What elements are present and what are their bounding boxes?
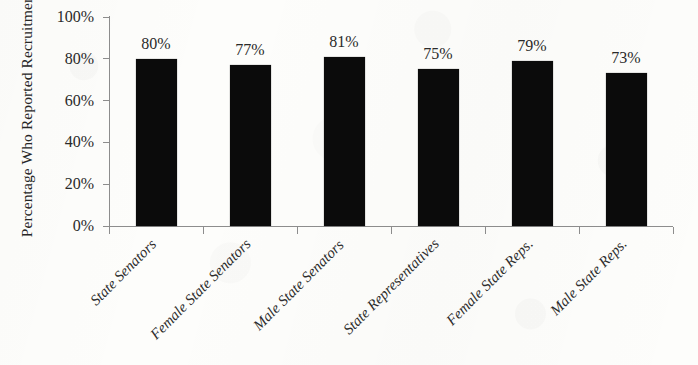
y-tick-label: 0% bbox=[4, 218, 94, 234]
y-axis-line bbox=[109, 16, 110, 227]
y-tick-label: 20% bbox=[4, 176, 94, 192]
bar-value-label: 75% bbox=[398, 46, 478, 62]
bar-value-label: 77% bbox=[210, 42, 290, 58]
y-tick-label: 100% bbox=[4, 9, 94, 25]
y-tick-mark bbox=[103, 142, 110, 143]
y-tick-label: 80% bbox=[4, 51, 94, 67]
x-category-label: Female State Senators bbox=[147, 236, 254, 343]
x-tick-mark bbox=[485, 227, 486, 234]
x-tick-mark bbox=[391, 227, 392, 234]
x-category-label: State Representatives bbox=[340, 236, 443, 339]
y-tick-mark bbox=[103, 58, 110, 59]
y-tick-mark bbox=[103, 17, 110, 18]
x-tick-mark bbox=[109, 227, 110, 234]
bar-value-label: 80% bbox=[116, 36, 196, 52]
bar bbox=[606, 73, 647, 226]
x-category-label: Female State Reps. bbox=[443, 236, 537, 330]
bar bbox=[136, 59, 177, 226]
x-category-label: State Senators bbox=[87, 236, 160, 309]
bar-value-label: 81% bbox=[304, 34, 384, 50]
y-tick-mark bbox=[103, 184, 110, 185]
bar bbox=[418, 69, 459, 226]
x-category-label: Male State Senators bbox=[250, 236, 347, 333]
y-tick-label: 40% bbox=[4, 134, 94, 150]
x-tick-mark bbox=[673, 227, 674, 234]
y-axis-title: Percentage Who Reported Recruitment bbox=[18, 0, 36, 239]
x-tick-mark bbox=[203, 227, 204, 234]
bar bbox=[230, 65, 271, 226]
x-tick-mark bbox=[297, 227, 298, 234]
x-tick-mark bbox=[579, 227, 580, 234]
y-tick-mark bbox=[103, 100, 110, 101]
bar bbox=[512, 61, 553, 226]
y-tick-label: 60% bbox=[4, 93, 94, 109]
bar-value-label: 73% bbox=[586, 50, 666, 66]
x-category-label: Male State Reps. bbox=[547, 236, 631, 320]
bar-value-label: 79% bbox=[492, 38, 572, 54]
bar-chart: Percentage Who Reported Recruitment 0%20… bbox=[0, 0, 698, 365]
bar bbox=[324, 57, 365, 226]
